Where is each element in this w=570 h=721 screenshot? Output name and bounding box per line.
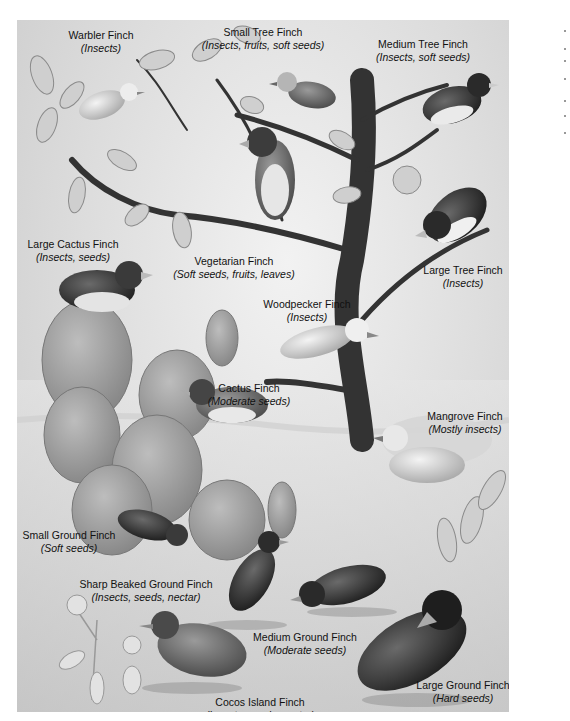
label-woodpecker-finch: Woodpecker Finch (Insects) bbox=[263, 298, 350, 323]
species-diet: (Soft seeds, fruits, leaves) bbox=[173, 268, 294, 281]
label-sharp-beaked-ground-finch: Sharp Beaked Ground Finch (Insects, seed… bbox=[79, 578, 212, 603]
species-name: Warbler Finch bbox=[69, 29, 134, 42]
species-name: Cocos Island Finch bbox=[205, 696, 314, 709]
label-warbler-finch: Warbler Finch (Insects) bbox=[69, 29, 134, 54]
page-edge-marks bbox=[520, 20, 570, 160]
species-name: Woodpecker Finch bbox=[263, 298, 350, 311]
species-diet: (Insects, fruits, soft seeds) bbox=[202, 39, 325, 52]
bird-large-cactus-finch bbox=[59, 261, 153, 312]
species-name: Large Tree Finch bbox=[423, 264, 502, 277]
species-diet: (Moderate seeds) bbox=[253, 644, 357, 657]
species-diet: (Soft seeds) bbox=[23, 542, 116, 555]
species-diet: (Insects, seeds) bbox=[27, 251, 118, 264]
finch-illustration: Warbler Finch (Insects) Small Tree Finch… bbox=[17, 20, 509, 712]
label-large-ground-finch: Large Ground Finch (Hard seeds) bbox=[416, 679, 509, 704]
label-cactus-finch: Cactus Finch (Moderate seeds) bbox=[208, 382, 290, 407]
label-large-tree-finch: Large Tree Finch (Insects) bbox=[423, 264, 502, 289]
species-diet: (Moderate seeds) bbox=[208, 395, 290, 408]
species-name: Vegetarian Finch bbox=[173, 255, 294, 268]
species-name: Medium Tree Finch bbox=[376, 38, 470, 51]
label-medium-tree-finch: Medium Tree Finch (Insects, soft seeds) bbox=[376, 38, 470, 63]
label-cocos-island-finch: Cocos Island Finch (Insects, seeds, nect… bbox=[205, 696, 314, 712]
species-diet: (Insects) bbox=[263, 311, 350, 324]
scene-artwork bbox=[17, 20, 509, 712]
species-name: Mangrove Finch bbox=[427, 410, 502, 423]
species-name: Small Ground Finch bbox=[23, 529, 116, 542]
label-mangrove-finch: Mangrove Finch (Mostly insects) bbox=[427, 410, 502, 435]
species-name: Large Cactus Finch bbox=[27, 238, 118, 251]
species-name: Sharp Beaked Ground Finch bbox=[79, 578, 212, 591]
species-diet: (Insects, seeds, nectar) bbox=[79, 591, 212, 604]
label-medium-ground-finch: Medium Ground Finch (Moderate seeds) bbox=[253, 631, 357, 656]
label-large-cactus-finch: Large Cactus Finch (Insects, seeds) bbox=[27, 238, 118, 263]
species-name: Large Ground Finch bbox=[416, 679, 509, 692]
species-name: Cactus Finch bbox=[208, 382, 290, 395]
bird-vegetarian-finch bbox=[239, 127, 295, 220]
bird-woodpecker-finch bbox=[277, 318, 379, 365]
species-diet: (Insects) bbox=[69, 42, 134, 55]
species-name: Small Tree Finch bbox=[202, 26, 325, 39]
species-name: Medium Ground Finch bbox=[253, 631, 357, 644]
bird-small-tree-finch bbox=[269, 72, 338, 112]
label-small-ground-finch: Small Ground Finch (Soft seeds) bbox=[23, 529, 116, 554]
bird-warbler-finch bbox=[75, 83, 145, 125]
species-diet: (Insects, seeds, nectar) bbox=[205, 709, 314, 713]
label-vegetarian-finch: Vegetarian Finch (Soft seeds, fruits, le… bbox=[173, 255, 294, 280]
species-diet: (Hard seeds) bbox=[416, 692, 509, 705]
label-small-tree-finch: Small Tree Finch (Insects, fruits, soft … bbox=[202, 26, 325, 51]
species-diet: (Insects, soft seeds) bbox=[376, 51, 470, 64]
species-diet: (Mostly insects) bbox=[427, 423, 502, 436]
species-diet: (Insects) bbox=[423, 277, 502, 290]
bird-medium-tree-finch bbox=[418, 73, 499, 130]
